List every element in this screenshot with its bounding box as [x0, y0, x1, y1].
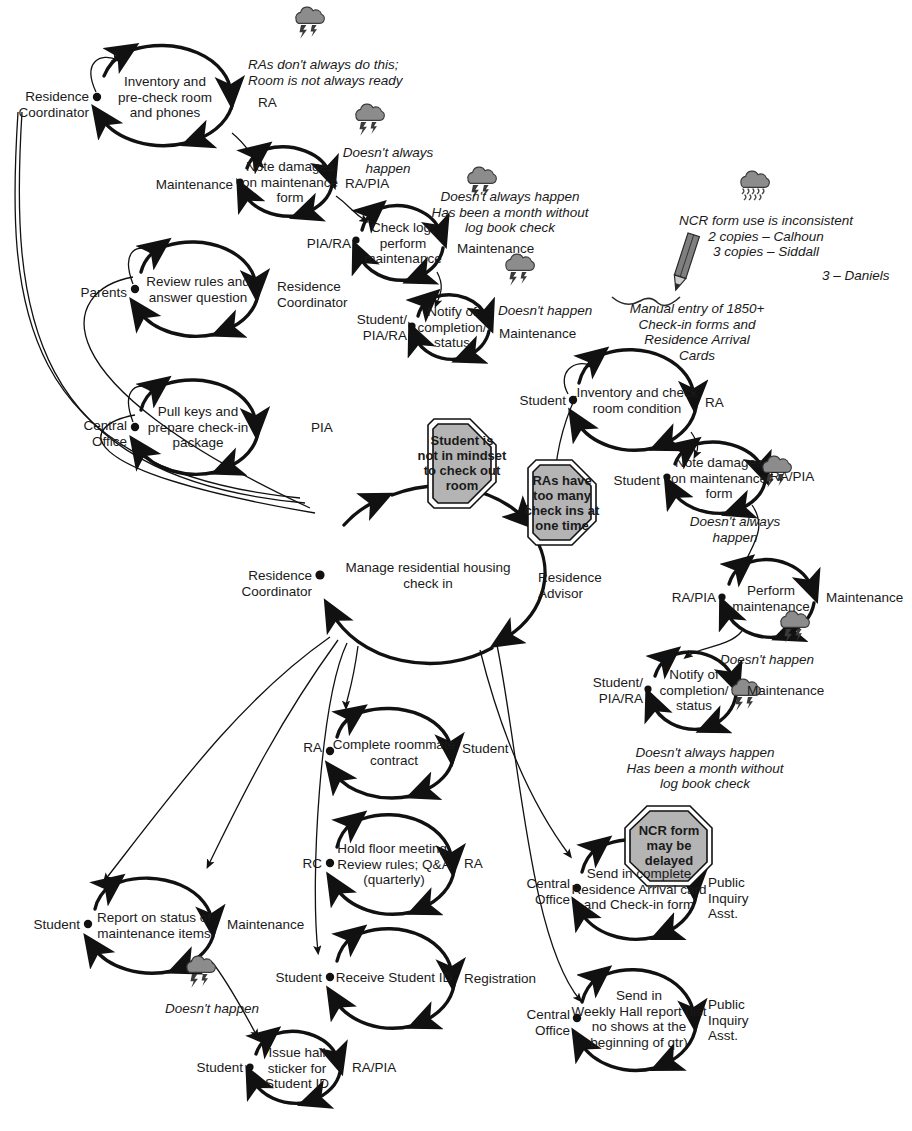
role-label-issue-hall-sticker-left: Student — [196, 1060, 243, 1076]
process-label-inventory-check-room: Inventory and check room condition — [577, 385, 698, 416]
role-label-receive-student-id-left: Student — [275, 970, 322, 986]
role-label-note-damages-1-left: Maintenance — [156, 177, 233, 193]
process-label-notify-completion-1: Notify of completion/ status — [417, 304, 486, 351]
process-label-send-arrival-card: Send in complete Residence Arrival card … — [571, 866, 706, 913]
role-label-send-arrival-card-left: Central Office — [526, 876, 570, 907]
process-label-perform-maintenance: Perform maintenance — [732, 583, 809, 614]
note-doesnt-happen-1: Doesn't happen — [498, 303, 592, 319]
role-label-floor-meeting-left: RC — [303, 856, 323, 872]
role-label-send-weekly-hall-report-right: Public Inquiry Asst. — [708, 997, 749, 1044]
process-label-pull-keys: Pull keys and prepare check-in package — [148, 404, 249, 451]
role-label-notify-completion-2-right: Maintenance — [747, 683, 824, 699]
process-label-roommate-contract: Complete roommate contract — [333, 737, 455, 768]
note-ncr-daniels: 3 – Daniels — [822, 268, 890, 284]
issue-ncr-delayed-label: NCR form may be delayed — [639, 823, 700, 868]
role-label-floor-meeting-right: RA — [464, 856, 483, 872]
role-label-note-damages-2-left: Student — [613, 473, 660, 489]
process-label-send-weekly-hall-report: Send in Weekly Hall report (list no show… — [572, 988, 707, 1050]
role-label-report-maintenance-status-right: Maintenance — [227, 917, 304, 933]
process-label-manage-check-in: Manage residential housing check in — [345, 560, 510, 591]
role-label-note-damages-2-right: RA/PIA — [770, 469, 814, 485]
note-doesnt-always-happen-2: Doesn't always happen — [690, 514, 780, 545]
role-label-issue-hall-sticker-right: RA/PIA — [352, 1060, 396, 1076]
process-label-note-damages-2: Note damages on maintenance form — [671, 455, 767, 502]
role-label-review-rules-right: Residence Coordinator — [277, 279, 348, 310]
role-label-roommate-contract-left: RA — [303, 740, 322, 756]
note-doesnt-happen-3: Doesn't happen — [165, 1001, 259, 1017]
role-label-perform-maintenance-right: Maintenance — [826, 590, 903, 606]
role-label-inventory-check-room-left: Student — [519, 393, 566, 409]
process-label-report-maintenance-status: Report on status of maintenance items — [97, 910, 211, 941]
role-label-inventory-check-room-right: RA — [705, 395, 724, 411]
role-label-notify-completion-1-left: Student/ PIA/RA — [357, 312, 407, 343]
issue-ras-too-many-label: RAs have too many check ins at one time — [525, 473, 599, 533]
role-label-perform-maintenance-left: RA/PIA — [672, 590, 716, 606]
role-label-pull-keys-left: Central Office — [83, 418, 127, 449]
note-doesnt-happen-2: Doesn't happen — [720, 652, 814, 668]
role-label-report-maintenance-status-left: Student — [33, 917, 80, 933]
note-doesnt-always-happen-1: Doesn't always happen — [343, 145, 433, 176]
note-log-book-check-1: Doesn't always happen Has been a month w… — [432, 189, 589, 236]
note-ncr-inconsistent: NCR form use is inconsistent 2 copies – … — [679, 213, 853, 260]
process-label-check-log: Check log; perform maintenance — [364, 220, 441, 267]
process-label-note-damages-1: Note damages on maintenance form — [242, 159, 338, 206]
process-label-inventory-precheck: Inventory and pre-check room and phones — [118, 74, 212, 121]
role-label-notify-completion-2-left: Student/ PIA/RA — [593, 675, 643, 706]
note-log-book-check-2: Doesn't always happen Has been a month w… — [627, 745, 784, 792]
diagram-canvas: Manage residential housing check in Resi… — [0, 0, 912, 1131]
role-label-center-left: Residence Coordinator — [241, 568, 312, 599]
role-label-pull-keys-right: PIA — [311, 420, 333, 436]
process-label-issue-hall-sticker: Issue hall sticker for Student ID — [265, 1045, 329, 1092]
role-label-note-damages-1-right: RA/PIA — [345, 176, 389, 192]
role-label-check-log-left: PIA/RA — [307, 236, 351, 252]
role-label-receive-student-id-right: Registration — [464, 971, 536, 987]
role-label-inventory-precheck-left: Residence Coordinator — [18, 89, 89, 120]
role-label-check-log-right: Maintenance — [457, 241, 534, 257]
role-label-review-rules-left: Parents — [80, 285, 127, 301]
role-label-send-weekly-hall-report-left: Central Office — [526, 1007, 570, 1038]
process-label-review-rules: Review rules and answer question — [146, 274, 250, 305]
issue-student-mindset-label: Student is not in mindset to check out r… — [418, 433, 507, 493]
process-label-notify-completion-2: Notify of completion/ status — [659, 667, 728, 714]
note-ras-dont-always: RAs don't always do this; Room is not al… — [248, 57, 403, 88]
process-label-receive-student-id: Receive Student ID — [336, 970, 452, 986]
role-label-notify-completion-1-right: Maintenance — [499, 326, 576, 342]
role-label-center-right: Residence Advisor — [538, 570, 602, 601]
role-label-roommate-contract-right: Student — [462, 741, 509, 757]
role-label-inventory-precheck-right: RA — [258, 95, 277, 111]
role-label-send-arrival-card-right: Public Inquiry Asst. — [708, 875, 749, 922]
process-label-floor-meeting: Hold floor meeting; Review rules; Q&A (q… — [337, 841, 450, 888]
note-manual-entry: Manual entry of 1850+ Check-in forms and… — [630, 301, 765, 363]
